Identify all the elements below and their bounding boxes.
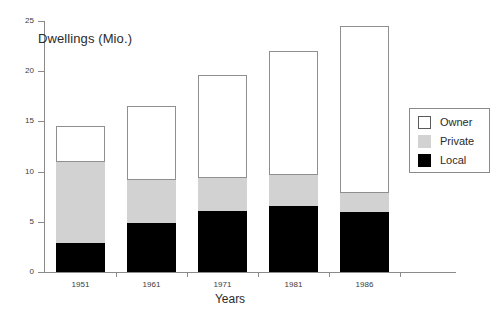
x-tick-label: 1951 — [51, 281, 111, 289]
bar-group — [56, 21, 105, 272]
y-tick-mark — [38, 71, 45, 72]
y-tick-mark — [38, 21, 45, 22]
x-tick-label: 1981 — [264, 281, 324, 289]
plot-area — [45, 21, 400, 272]
x-tick-mark — [116, 272, 117, 277]
bar-segment-owner — [56, 126, 105, 161]
y-tick-mark — [38, 121, 45, 122]
legend-item-local: Local — [418, 152, 466, 168]
legend-label-owner: Owner — [440, 117, 472, 128]
x-tick-mark — [258, 272, 259, 277]
x-tick-mark — [329, 272, 330, 277]
x-axis-line — [44, 272, 456, 273]
bar-group — [269, 21, 318, 272]
bar-group — [340, 21, 389, 272]
bar-segment-local — [56, 243, 105, 272]
y-tick-label: 25 — [4, 17, 34, 25]
y-tick-mark — [38, 222, 45, 223]
bar-segment-local — [340, 212, 389, 272]
x-tick-mark — [400, 272, 401, 277]
legend-swatch-owner-icon — [418, 116, 431, 129]
y-tick-mark — [38, 272, 45, 273]
bar-segment-local — [198, 211, 247, 272]
y-tick-label: 5 — [4, 218, 34, 226]
bar-segment-private — [340, 193, 389, 212]
legend-item-owner: Owner — [418, 114, 472, 130]
bar-group — [127, 21, 176, 272]
chart-title: Dwellings (Mio.) — [38, 31, 132, 46]
y-tick-label: 0 — [4, 268, 34, 276]
x-axis-title: Years — [0, 292, 460, 306]
x-tick-label: 1971 — [193, 281, 253, 289]
y-tick-label: 10 — [4, 168, 34, 176]
x-tick-label: 1961 — [122, 281, 182, 289]
bar-segment-private — [56, 162, 105, 243]
legend-item-private: Private — [418, 133, 474, 149]
bar-segment-owner — [269, 51, 318, 174]
bar-segment-local — [269, 206, 318, 272]
bar-segment-owner — [127, 106, 176, 179]
stacked-bar-chart: 0510152025 19511961197119811986 Dwelling… — [0, 0, 501, 312]
bar-segment-private — [269, 175, 318, 206]
y-tick-label: 20 — [4, 67, 34, 75]
x-tick-label: 1986 — [335, 281, 395, 289]
bar-segment-owner — [198, 75, 247, 177]
legend-swatch-local-icon — [418, 154, 431, 167]
bar-segment-private — [127, 180, 176, 223]
bar-segment-owner — [340, 26, 389, 193]
x-tick-mark — [187, 272, 188, 277]
bar-group — [198, 21, 247, 272]
y-tick-label: 15 — [4, 117, 34, 125]
legend-swatch-private-icon — [418, 135, 431, 148]
legend-label-local: Local — [440, 155, 466, 166]
bar-segment-local — [127, 223, 176, 272]
legend-label-private: Private — [440, 136, 474, 147]
chart-legend: Owner Private Local — [409, 108, 490, 173]
y-tick-mark — [38, 172, 45, 173]
bar-segment-private — [198, 178, 247, 211]
